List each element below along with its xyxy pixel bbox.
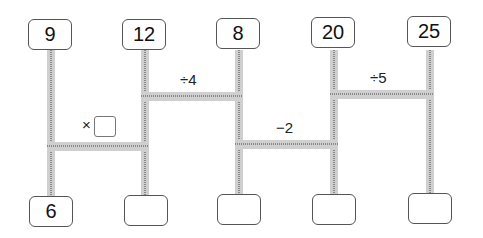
- ladder-rail-4: [330, 50, 338, 196]
- op-minus-2-label: −2: [276, 119, 293, 136]
- bottom-box-2-answer[interactable]: [124, 195, 168, 226]
- bottom-box-1: 6: [29, 196, 73, 227]
- op-divide-4-label: ÷4: [180, 71, 197, 88]
- bottom-box-3-answer[interactable]: [217, 194, 261, 225]
- rung-divide-5: [330, 90, 434, 99]
- op-divide-5-label: ÷5: [370, 69, 387, 86]
- op-multiply-label: ×: [82, 116, 91, 133]
- multiplier-answer-box[interactable]: [94, 116, 116, 137]
- top-box-2: 12: [122, 19, 166, 50]
- ladder-rail-3: [235, 50, 243, 196]
- ladder-rail-1: [47, 50, 55, 196]
- rung-multiply: [47, 142, 149, 151]
- op-minus-2: −2: [276, 119, 293, 136]
- ladder-rail-5: [426, 50, 434, 196]
- top-box-3: 8: [216, 18, 260, 49]
- bottom-box-4-answer[interactable]: [312, 194, 356, 225]
- ladder-rail-2: [141, 50, 149, 196]
- rung-minus-2: [235, 140, 338, 149]
- top-box-4: 20: [311, 17, 355, 48]
- bottom-box-5-answer[interactable]: [408, 193, 452, 224]
- rung-divide-4: [141, 92, 243, 101]
- op-divide-4: ÷4: [180, 71, 197, 88]
- top-box-1: 9: [28, 19, 72, 50]
- op-multiply: ×: [82, 116, 116, 137]
- op-divide-5: ÷5: [370, 69, 387, 86]
- top-box-5: 25: [407, 16, 451, 47]
